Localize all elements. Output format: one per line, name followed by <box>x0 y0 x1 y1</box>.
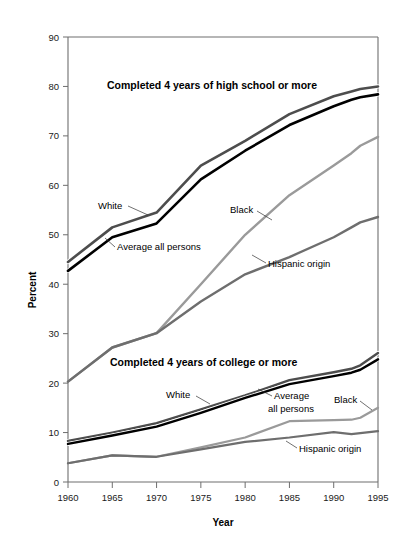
series-line-average-all-persons <box>68 94 378 271</box>
y-tick-label: 80 <box>48 81 59 92</box>
chart-canvas: 0102030405060708090 19601965197019751980… <box>0 0 405 547</box>
leader-black-college <box>360 401 372 410</box>
label-average-college-line2: all persons <box>268 403 314 414</box>
series-group <box>68 86 378 381</box>
label-hispanic-highschool: Hispanic origin <box>268 258 330 269</box>
x-tick-label: 1975 <box>190 492 211 503</box>
x-axis-title: Year <box>212 517 233 528</box>
label-black-highschool: Black <box>230 204 253 215</box>
y-axis-ticks: 0102030405060708090 <box>48 32 68 488</box>
y-tick-label: 10 <box>48 427 59 438</box>
education-attainment-chart: 0102030405060708090 19601965197019751980… <box>0 0 405 547</box>
series-line-black <box>68 137 378 382</box>
y-tick-label: 40 <box>48 279 59 290</box>
x-tick-label: 1960 <box>57 492 78 503</box>
label-white-college: White <box>166 389 190 400</box>
x-tick-label: 1990 <box>323 492 344 503</box>
x-tick-label: 1995 <box>367 492 388 503</box>
x-axis-ticks: 19601965197019751980198519901995 <box>57 482 388 503</box>
leader-hispanic-highschool <box>252 255 266 263</box>
label-average-highschool: Average all persons <box>117 241 201 252</box>
leader-hispanic-college <box>286 441 297 448</box>
highschool-panel-title: Completed 4 years of high school or more <box>107 79 317 91</box>
y-tick-label: 70 <box>48 130 59 141</box>
series-layer <box>68 86 378 463</box>
x-tick-label: 1965 <box>102 492 123 503</box>
y-tick-label: 20 <box>48 378 59 389</box>
label-black-college: Black <box>334 394 357 405</box>
leader-white-highschool <box>128 206 148 215</box>
college-panel-title: Completed 4 years of college or more <box>110 356 297 368</box>
y-tick-label: 30 <box>48 328 59 339</box>
y-tick-label: 90 <box>48 32 59 43</box>
leader-white-college <box>196 396 210 404</box>
label-hispanic-college: Hispanic origin <box>299 443 361 454</box>
x-tick-label: 1970 <box>146 492 167 503</box>
series-halo <box>68 94 378 271</box>
y-tick-label: 60 <box>48 180 59 191</box>
y-axis-title: Percent <box>27 271 38 308</box>
label-average-college-line1: Average <box>274 390 309 401</box>
x-tick-label: 1985 <box>279 492 300 503</box>
x-tick-label: 1980 <box>235 492 256 503</box>
y-tick-label: 50 <box>48 229 59 240</box>
y-tick-label: 0 <box>54 477 59 488</box>
label-white-highschool: White <box>98 200 122 211</box>
